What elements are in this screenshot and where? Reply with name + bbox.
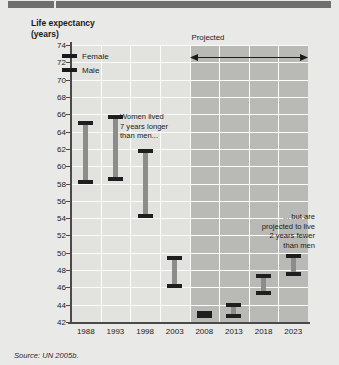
y-tick-label-46: 46 <box>42 283 66 292</box>
projected-label: Projected <box>148 33 268 42</box>
legend-label-male: Male <box>82 66 99 75</box>
range-bar-cap-high-female <box>167 256 182 260</box>
range-bar-cap-low-male <box>138 214 153 218</box>
plot-area <box>71 45 308 322</box>
range-bar-stem <box>172 258 177 286</box>
y-tick-label-68: 68 <box>42 92 66 101</box>
y-tick-mark-66 <box>66 114 70 115</box>
y-tick-label-50: 50 <box>42 248 66 257</box>
y-tick-mark-44 <box>66 305 70 306</box>
gridline-x-5 <box>219 45 220 322</box>
y-tick-label-52: 52 <box>42 231 66 240</box>
y-tick-mark-70 <box>66 80 70 81</box>
range-bar-cap-low-female <box>286 272 301 276</box>
range-bar-cap-low-female <box>226 314 241 318</box>
y-tick-label-48: 48 <box>42 266 66 275</box>
gridline-x-2 <box>130 45 131 322</box>
y-tick-mark-50 <box>66 253 70 254</box>
range-bar-cap-low-male <box>108 177 123 181</box>
annotation-projected-fewer: ... but are projected to live 2 years fe… <box>210 212 315 250</box>
y-tick-mark-46 <box>66 287 70 288</box>
x-tick-label-2023: 2023 <box>273 327 313 336</box>
range-bar-stem <box>83 123 88 182</box>
annotation-women-lived-longer: Women lived 7 years longer than men... <box>120 112 168 141</box>
y-tick-label-60: 60 <box>42 162 66 171</box>
y-tick-mark-56 <box>66 201 70 202</box>
legend-item-female: Female <box>62 49 109 63</box>
range-bar-cap-low-male <box>167 284 182 288</box>
y-tick-mark-64 <box>66 132 70 133</box>
range-bar-cap-high-female <box>78 121 93 125</box>
legend-label-female: Female <box>82 52 109 61</box>
y-tick-mark-42 <box>66 322 70 323</box>
y-tick-label-42: 42 <box>42 318 66 327</box>
range-bar-stem <box>113 117 118 179</box>
y-tick-mark-74 <box>66 45 70 46</box>
legend-swatch-male <box>62 68 77 72</box>
range-bar-cap-high-male <box>226 303 241 307</box>
y-tick-label-66: 66 <box>42 110 66 119</box>
range-bar-cap-high-male <box>256 274 271 278</box>
header-bar-left <box>8 1 54 8</box>
gridline-x-3 <box>160 45 161 322</box>
y-tick-mark-68 <box>66 97 70 98</box>
y-tick-label-58: 58 <box>42 179 66 188</box>
range-bar-cap-low-male <box>197 314 212 318</box>
legend-item-male: Male <box>62 63 109 77</box>
range-bar-cap-low-female <box>256 291 271 295</box>
y-tick-mark-58 <box>66 184 70 185</box>
y-tick-mark-62 <box>66 149 70 150</box>
y-tick-label-54: 54 <box>42 214 66 223</box>
y-tick-label-62: 62 <box>42 144 66 153</box>
life-expectancy-chart-figure: Life expectancy (years) 7472706866646260… <box>0 9 339 365</box>
y-tick-mark-60 <box>66 166 70 167</box>
range-bar-cap-high-male <box>286 254 301 258</box>
x-axis-line <box>68 322 310 324</box>
y-tick-mark-52 <box>66 235 70 236</box>
y-axis-line <box>70 42 72 324</box>
range-bar-stem <box>143 151 148 217</box>
gridline-x-1 <box>101 45 102 322</box>
projected-range-arrow <box>190 53 308 62</box>
header-bar-right <box>56 1 331 8</box>
y-tick-label-44: 44 <box>42 300 66 309</box>
legend-swatch-female <box>62 54 77 58</box>
gridline-x-4 <box>190 45 191 322</box>
gridline-x-6 <box>249 45 250 322</box>
source-note: Source: UN 2005b. <box>14 351 79 360</box>
y-tick-label-64: 64 <box>42 127 66 136</box>
range-bar-cap-high-female <box>138 149 153 153</box>
y-tick-mark-54 <box>66 218 70 219</box>
y-tick-label-56: 56 <box>42 196 66 205</box>
range-bar-cap-low-male <box>78 180 93 184</box>
y-tick-mark-48 <box>66 270 70 271</box>
gridline-x-7 <box>278 45 279 322</box>
header-bars <box>0 0 339 9</box>
chart-legend: FemaleMale <box>62 49 109 77</box>
